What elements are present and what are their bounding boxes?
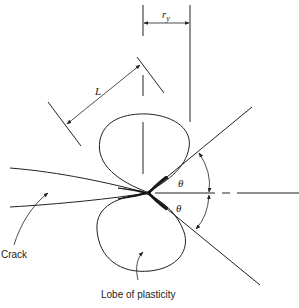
crack-leader-arrow xyxy=(14,193,48,245)
length-label: L xyxy=(94,85,101,97)
lower-ray xyxy=(150,195,260,285)
ry-dimension: ry xyxy=(143,5,190,122)
theta-upper-label: θ xyxy=(178,177,184,189)
upper-lobe xyxy=(99,114,189,192)
upper-angle-arc xyxy=(199,153,210,192)
lower-angle-arc xyxy=(196,195,209,229)
crack-lower-face xyxy=(10,193,147,207)
lower-lobe xyxy=(97,194,186,271)
crack-label: Crack xyxy=(1,249,28,260)
length-dimension: L xyxy=(48,57,164,146)
theta-lower-label: θ xyxy=(176,202,182,214)
ry-label: ry xyxy=(162,8,170,23)
lobe-label: Lobe of plasticity xyxy=(101,289,176,300)
plastic-zone-diagram: ry L θ θ Crack Lobe of plasticity xyxy=(0,0,299,308)
upper-ray xyxy=(150,107,252,191)
lobe-leader-arrow xyxy=(137,252,143,280)
